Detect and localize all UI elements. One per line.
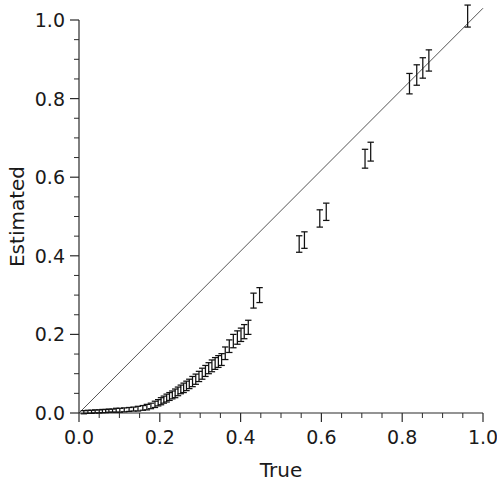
x-axis-title: True — [259, 458, 302, 482]
data-point — [464, 5, 470, 27]
data-point — [234, 331, 240, 344]
x-tick-label: 0.4 — [225, 426, 255, 448]
data-point — [420, 58, 426, 78]
data-point — [296, 236, 302, 253]
data-point — [367, 142, 373, 161]
scatter-plot: 0.00.20.40.60.81.00.00.20.40.60.81.0True… — [0, 0, 497, 484]
y-tick-label: 0.2 — [35, 323, 65, 345]
x-tick-label: 0.2 — [145, 426, 175, 448]
x-tick-label: 1.0 — [468, 426, 497, 448]
data-point — [301, 232, 307, 249]
x-tick-label: 0.0 — [64, 426, 94, 448]
data-point — [317, 210, 323, 227]
data-point — [202, 365, 208, 376]
data-point — [193, 374, 199, 384]
y-tick-label: 0.8 — [35, 88, 65, 110]
y-tick-label: 1.0 — [35, 9, 65, 31]
data-point — [323, 203, 329, 220]
y-axis-title: Estimated — [5, 166, 29, 267]
data-point — [256, 288, 262, 303]
data-point — [241, 325, 247, 339]
y-tick-label: 0.0 — [35, 402, 65, 424]
data-point — [238, 328, 244, 341]
data-point — [189, 376, 195, 386]
data-point — [414, 65, 420, 85]
data-point — [245, 320, 251, 334]
chart-page: 0.00.20.40.60.81.00.00.20.40.60.81.0True… — [0, 0, 497, 484]
data-point — [199, 368, 205, 379]
data-point — [196, 371, 202, 381]
y-tick-label: 0.4 — [35, 245, 65, 267]
data-point — [152, 401, 158, 407]
data-point — [250, 293, 256, 308]
x-tick-label: 0.6 — [306, 426, 336, 448]
data-point — [362, 149, 368, 168]
data-point — [226, 340, 232, 353]
data-point — [230, 334, 236, 347]
x-tick-label: 0.8 — [387, 426, 417, 448]
y-tick-label: 0.6 — [35, 166, 65, 188]
